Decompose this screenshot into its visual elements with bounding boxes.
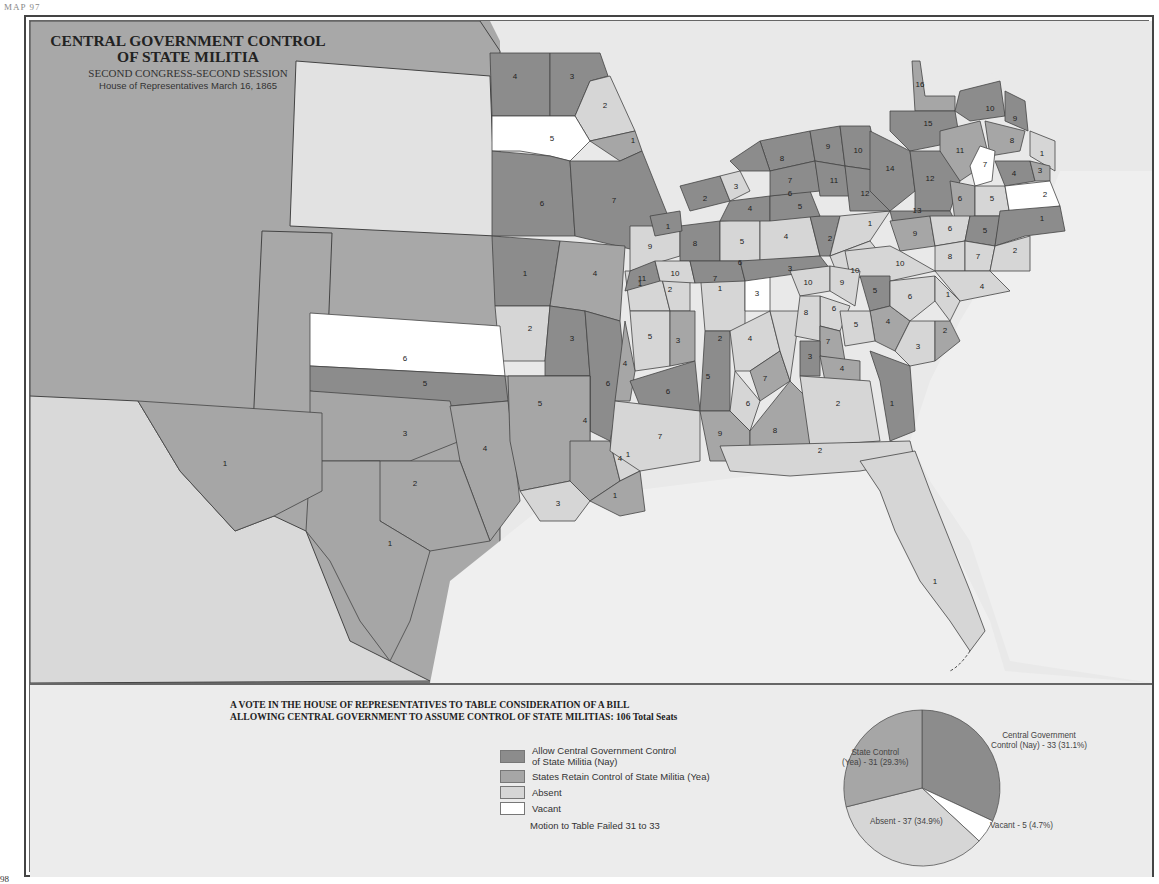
svg-text:4: 4 [748,334,753,343]
map-frame: 4325167 142365 6534211 44311 1253467 132… [24,15,1154,877]
map-title-line1: CENTRAL GOVERNMENT CONTROL [38,33,338,49]
svg-text:10: 10 [854,146,863,155]
svg-text:3: 3 [788,264,793,273]
svg-text:5: 5 [798,202,803,211]
svg-text:6: 6 [958,194,963,203]
mississippi [610,271,700,471]
svg-text:9: 9 [648,242,653,251]
svg-text:7: 7 [658,432,663,441]
page-mark: MAP 97 [4,2,40,12]
svg-text:1: 1 [1040,214,1045,223]
legend-label: Absent [532,787,562,798]
svg-text:3: 3 [676,336,681,345]
yea-swatch [500,770,525,783]
svg-text:2: 2 [603,101,608,110]
svg-text:9: 9 [913,229,918,238]
svg-text:8: 8 [948,252,953,261]
svg-text:2: 2 [528,324,533,333]
svg-text:10: 10 [804,278,813,287]
map-title-line2: OF STATE MILITIA [38,49,338,65]
legend-panel: A VOTE IN THE HOUSE OF REPRESENTATIVES T… [30,685,1152,877]
svg-text:7: 7 [763,374,768,383]
svg-text:2: 2 [668,285,673,294]
svg-text:6: 6 [948,224,953,233]
svg-text:2: 2 [836,399,841,408]
svg-text:5: 5 [423,379,428,388]
svg-text:1: 1 [626,450,631,459]
legend-item-nay: Allow Central Government Controlof State… [500,745,710,767]
legend-label: of State Militia (Nay) [532,756,676,767]
pie-chart: Central Government Control (Nay) - 33 (3… [806,693,1146,873]
svg-text:5: 5 [538,399,543,408]
svg-text:8: 8 [1010,136,1015,145]
svg-text:6: 6 [746,399,751,408]
svg-text:5: 5 [983,226,988,235]
label-line: State Control [842,748,909,758]
svg-text:1: 1 [523,269,528,278]
svg-text:9: 9 [840,278,845,287]
vote-headline: A VOTE IN THE HOUSE OF REPRESENTATIVES T… [230,699,677,723]
label-line: Control (Nay) - 33 (31.1%) [991,741,1087,751]
svg-text:10: 10 [896,259,905,268]
svg-text:11: 11 [638,274,647,283]
label-line: Central Government [991,731,1087,741]
svg-text:3: 3 [916,342,921,351]
svg-text:9: 9 [826,142,831,151]
svg-text:3: 3 [570,72,575,81]
confederacy-map: 4325167 142365 6534211 44311 1253467 132… [30,21,1152,683]
svg-text:3: 3 [755,289,760,298]
svg-text:15: 15 [924,119,933,128]
svg-text:3: 3 [734,182,739,191]
pie-label-yea: State Control (Yea) - 31 (29.3%) [842,748,909,768]
svg-text:2: 2 [818,446,823,455]
svg-text:6: 6 [403,354,408,363]
map-subtitle: SECOND CONGRESS-SECOND SESSION [38,67,338,79]
svg-text:1: 1 [388,539,393,548]
svg-text:2: 2 [703,194,708,203]
pie-label-vacant: Vacant - 5 (4.7%) [990,821,1053,831]
svg-text:13: 13 [913,206,922,215]
svg-text:4: 4 [593,269,598,278]
svg-text:4: 4 [784,232,789,241]
svg-text:3: 3 [808,352,813,361]
svg-text:5: 5 [990,194,995,203]
svg-text:7: 7 [983,160,988,169]
svg-text:7: 7 [788,176,793,185]
nay-swatch [500,750,525,763]
legend-item-vacant: Vacant [500,802,710,815]
svg-text:5: 5 [550,134,555,143]
svg-text:8: 8 [780,154,785,163]
svg-text:1: 1 [613,491,618,500]
map-area: 4325167 142365 6534211 44311 1253467 132… [30,21,1152,685]
svg-text:16: 16 [916,80,925,89]
svg-text:5: 5 [648,332,653,341]
svg-text:4: 4 [583,416,588,425]
pie-svg [806,693,1146,873]
svg-text:6: 6 [832,304,837,313]
map-session: House of Representatives March 16, 1865 [38,80,338,91]
svg-text:8: 8 [693,239,698,248]
svg-text:3: 3 [1038,166,1043,175]
svg-text:3: 3 [556,499,561,508]
svg-text:14: 14 [886,164,895,173]
svg-text:7: 7 [976,252,981,261]
svg-text:1: 1 [718,284,723,293]
svg-text:5: 5 [854,320,859,329]
page-number: 98 [0,874,9,884]
svg-text:2: 2 [828,234,833,243]
map-inner-border: 4325167 142365 6534211 44311 1253467 132… [29,20,1149,872]
svg-text:9: 9 [1013,114,1018,123]
svg-text:9: 9 [718,429,723,438]
svg-text:1: 1 [946,290,951,299]
legend-label: Allow Central Government Control [532,745,676,756]
vacant-swatch [500,802,525,815]
svg-text:3: 3 [570,334,575,343]
headline-line2: ALLOWING CENTRAL GOVERNMENT TO ASSUME CO… [230,711,677,723]
svg-text:2: 2 [943,326,948,335]
legend-label: States Retain Control of State Militia (… [532,771,710,782]
svg-text:2: 2 [1043,190,1048,199]
svg-text:6: 6 [908,292,913,301]
map-title-block: CENTRAL GOVERNMENT CONTROL OF STATE MILI… [38,33,338,91]
alabama [700,271,810,461]
svg-text:4: 4 [886,317,891,326]
